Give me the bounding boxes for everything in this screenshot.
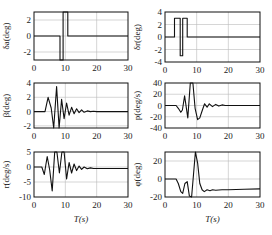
x-axis-label: T(s) [74,214,89,224]
subplot-top-right: 0102030420-2-4δr(deg) [132,7,265,75]
x-tick-label: 20 [224,65,234,75]
y-tick-label: 0 [27,31,32,41]
y-tick-label: 0 [27,107,32,117]
y-tick-label: 0 [158,174,163,184]
x-tick-label: 10 [61,200,71,210]
y-tick-label: -10 [19,192,31,202]
y-tick-label: 40 [153,78,163,88]
x-tick-label: 30 [256,65,266,75]
y-tick-label: 20 [153,156,163,166]
x-tick-label: 0 [32,131,37,141]
x-tick-label: 20 [92,200,102,210]
x-tick-label: 20 [224,131,234,141]
data-line-beta [34,87,128,128]
x-tick-label: 0 [32,200,37,210]
y-axis-label: β(deg) [1,94,11,118]
y-tick-label: -5 [24,177,32,187]
data-line-phi [165,152,260,197]
subplot-middle-left: 0102030420-2β(deg) [1,78,133,141]
x-tick-label: 10 [61,131,71,141]
y-axis-label: r(deg/s) [1,161,11,189]
x-tick-label: 30 [256,131,266,141]
x-tick-label: 20 [92,131,102,141]
x-tick-label: 10 [192,200,202,210]
x-axis-label: T(s) [205,214,220,224]
y-axis-label: p(deg/s) [132,91,142,121]
y-tick-label: 5 [27,147,32,157]
y-tick-label: -2 [24,121,32,131]
x-tick-label: 0 [163,131,168,141]
x-tick-label: 30 [124,200,134,210]
data-line-p [165,83,260,120]
x-tick-label: 20 [92,63,102,73]
data-line-delta_a [34,12,128,60]
x-tick-label: 0 [163,200,168,210]
y-axis-label: δa(deg) [1,22,11,49]
y-tick-label: -20 [150,112,162,122]
y-tick-label: 2 [158,20,163,30]
x-tick-label: 10 [61,63,71,73]
y-tick-label: 0 [27,162,32,172]
subplot-bottom-left: 010203050-5-10r(deg/s)T(s) [1,147,133,224]
y-tick-label: 20 [153,89,163,99]
x-tick-label: 30 [256,200,266,210]
y-tick-label: -20 [150,192,162,202]
subplot-top-left: 010203020-2δa(deg) [1,12,133,73]
y-axis-label: δr(deg) [132,24,142,50]
x-tick-label: 30 [124,63,134,73]
x-tick-label: 0 [32,63,37,73]
subplot-bottom-right: 0102030200-20φ(deg)T(s) [132,152,265,224]
x-tick-label: 0 [163,65,168,75]
y-tick-label: 2 [27,92,32,102]
subplot-middle-right: 010203040200-20-40p(deg/s) [132,78,265,141]
x-tick-label: 20 [224,200,234,210]
x-tick-label: 30 [124,131,134,141]
y-tick-label: 0 [158,101,163,111]
y-tick-label: 2 [27,15,32,25]
y-tick-label: 0 [158,32,163,42]
y-tick-label: -4 [155,57,163,67]
y-tick-label: -2 [24,47,32,57]
y-axis-label: φ(deg) [132,162,142,186]
y-tick-label: -40 [150,123,162,133]
plot-frame [34,83,128,128]
x-tick-label: 10 [192,131,202,141]
x-tick-label: 10 [192,65,202,75]
y-tick-label: -2 [155,45,163,55]
figure: 010203020-2δa(deg)0102030420-2-4δr(deg)0… [0,0,272,235]
data-line-r [34,152,128,191]
y-tick-label: 4 [158,7,163,17]
y-tick-label: 4 [27,78,32,88]
